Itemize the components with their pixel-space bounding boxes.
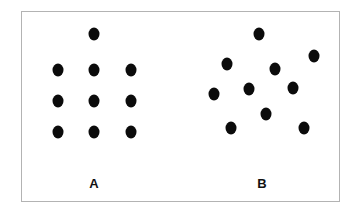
dot-b-6 [244,83,255,96]
dot-b-2 [309,50,320,63]
figure-root: A B [0,0,361,219]
group-label-b: B [257,177,266,190]
dot-b-9 [226,122,237,135]
figure-frame: A B [21,11,340,202]
dot-b-7 [288,82,299,95]
dot-b-4 [270,63,281,76]
dot-b-8 [261,108,272,121]
dot-b-1 [254,28,265,41]
dot-b-10 [299,122,310,135]
dot-b-3 [222,58,233,71]
dot-b-5 [209,88,220,101]
dot-group-b [22,12,339,201]
group-label-a: A [89,177,98,190]
